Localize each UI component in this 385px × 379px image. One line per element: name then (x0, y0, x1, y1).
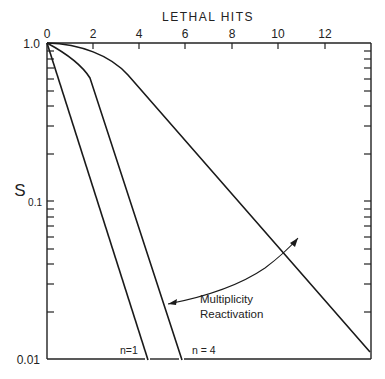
x-ticks (93, 43, 325, 49)
x-tick-label: 8 (229, 27, 236, 41)
y-ticks-right (364, 51, 371, 312)
x-tick-label: 10 (271, 27, 285, 41)
annotation-reactivation: Reactivation (200, 308, 263, 320)
y-tick-label: 1.0 (23, 37, 40, 51)
label-n1: n=1 (120, 344, 138, 356)
y-axis-title: S (14, 181, 25, 200)
curve-n4 (47, 43, 182, 360)
label-n4: n = 4 (192, 344, 216, 356)
annotation-multiplicity: Multiplicity (200, 293, 253, 305)
y-tick-label: 0.01 (17, 353, 41, 367)
x-tick-label: 2 (90, 27, 97, 41)
x-tick-labels: 0 2 4 6 8 10 12 (44, 27, 332, 41)
y-ticks-left (47, 51, 54, 312)
curve-n1 (47, 43, 148, 360)
y-tick-label: 0.1 (28, 197, 42, 208)
x-tick-label: 4 (136, 27, 143, 41)
x-tick-label: 0 (44, 27, 51, 41)
survival-curve-chart: LETHAL HITS 0 2 4 6 8 10 12 1.0 0.1 0.01… (0, 0, 385, 379)
x-tick-label: 6 (182, 27, 189, 41)
x-axis-title: LETHAL HITS (162, 10, 254, 24)
x-tick-label: 12 (318, 27, 332, 41)
chart-svg: LETHAL HITS 0 2 4 6 8 10 12 1.0 0.1 0.01… (0, 0, 385, 379)
